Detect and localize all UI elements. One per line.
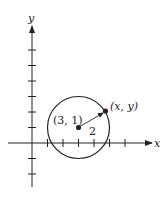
x-axis-label: x: [154, 137, 161, 150]
point-label: (x, y): [110, 100, 138, 113]
coordinate-diagram: y x (3, 1) 2 (x, y): [0, 0, 166, 197]
center-label: (3, 1): [53, 114, 83, 127]
point-on-circle: [103, 108, 108, 113]
radius-label: 2: [89, 125, 96, 138]
y-axis-label: y: [27, 12, 35, 25]
